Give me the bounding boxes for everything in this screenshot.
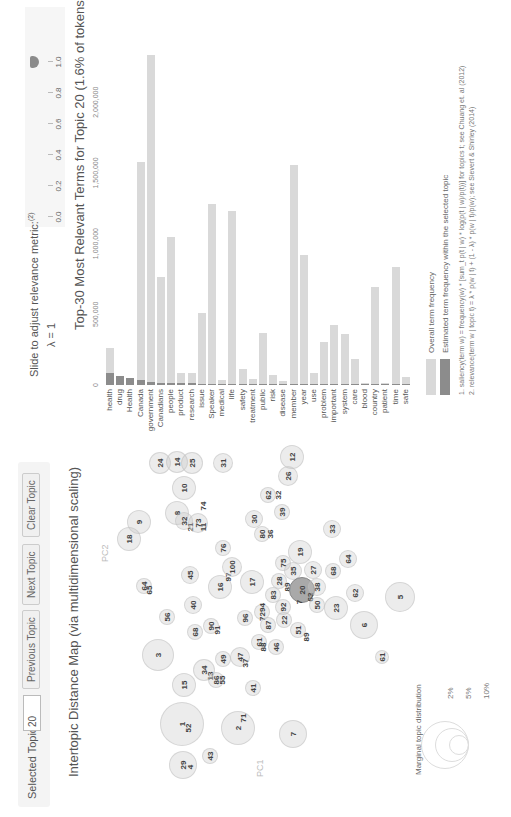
topic-label[interactable]: 5 xyxy=(396,595,405,599)
topic-label[interactable]: 7 xyxy=(295,600,304,604)
term-label[interactable]: life xyxy=(227,389,236,449)
topic-label[interactable]: 7 xyxy=(289,732,298,736)
topic-label[interactable]: 68 xyxy=(191,628,200,637)
topic-label[interactable]: 68 xyxy=(329,567,338,576)
topic-frequency-bar[interactable] xyxy=(330,384,338,385)
topic-label[interactable]: 83 xyxy=(269,591,278,600)
topic-frequency-bar[interactable] xyxy=(228,384,236,385)
topic-label[interactable]: 9 xyxy=(135,520,144,524)
term-label[interactable]: patient xyxy=(380,389,389,449)
topic-label[interactable]: 4 xyxy=(186,765,195,769)
term-label[interactable]: time xyxy=(391,389,400,449)
topic-label[interactable]: 50 xyxy=(313,601,322,610)
topic-label[interactable]: 62 xyxy=(351,589,360,598)
selected-topic-input[interactable] xyxy=(23,695,41,731)
overall-frequency-bar[interactable] xyxy=(167,237,175,385)
term-label[interactable]: health xyxy=(105,389,114,449)
topic-label[interactable]: 39 xyxy=(278,508,287,517)
topic-frequency-bar[interactable] xyxy=(167,383,175,385)
topic-frequency-bar[interactable] xyxy=(290,384,298,385)
topic-label[interactable]: 49 xyxy=(219,655,228,664)
overall-frequency-bar[interactable] xyxy=(290,165,298,385)
clear-topic-button[interactable]: Clear Topic xyxy=(22,473,40,537)
topic-label[interactable]: 36 xyxy=(266,530,275,539)
topic-label[interactable]: 74 xyxy=(199,502,208,511)
term-label[interactable]: Canadians xyxy=(156,389,165,449)
topic-frequency-bar[interactable] xyxy=(218,384,226,385)
term-label[interactable]: government xyxy=(146,389,155,449)
term-label[interactable]: safe xyxy=(401,389,410,449)
topic-label[interactable]: 46 xyxy=(272,643,281,652)
overall-frequency-bar[interactable] xyxy=(371,287,379,385)
overall-frequency-bar[interactable] xyxy=(147,55,155,385)
topic-label[interactable]: 88 xyxy=(259,643,268,652)
topic-label[interactable]: 96 xyxy=(241,614,250,623)
topic-frequency-bar[interactable] xyxy=(208,384,216,385)
topic-label[interactable]: 16 xyxy=(216,583,225,592)
topic-frequency-bar[interactable] xyxy=(116,376,124,385)
overall-frequency-bar[interactable] xyxy=(208,204,216,385)
term-label[interactable]: member xyxy=(289,389,298,449)
topic-frequency-bar[interactable] xyxy=(269,384,277,385)
topic-label[interactable]: 92 xyxy=(279,603,288,612)
term-label[interactable]: risk xyxy=(268,389,277,449)
term-label[interactable]: problem xyxy=(319,389,328,449)
topic-label[interactable]: 38 xyxy=(313,583,322,592)
term-label[interactable]: research xyxy=(187,389,196,449)
topic-frequency-bar[interactable] xyxy=(126,378,134,385)
overall-frequency-bar[interactable] xyxy=(137,162,145,385)
topic-label[interactable]: 32 xyxy=(274,491,283,500)
topic-label[interactable]: 45 xyxy=(186,571,195,580)
topic-label[interactable]: 33 xyxy=(328,525,337,534)
overall-frequency-bar[interactable] xyxy=(228,211,236,385)
term-label[interactable]: treatment xyxy=(248,389,257,449)
topic-label[interactable]: 100 xyxy=(228,560,237,573)
term-label[interactable]: disease xyxy=(278,389,287,449)
topic-frequency-bar[interactable] xyxy=(371,384,379,385)
topic-frequency-bar[interactable] xyxy=(259,384,267,385)
topic-label[interactable]: 27 xyxy=(309,566,318,575)
topic-frequency-bar[interactable] xyxy=(300,384,308,385)
topic-frequency-bar[interactable] xyxy=(106,373,114,385)
topic-label[interactable]: 30 xyxy=(250,515,259,524)
topic-frequency-bar[interactable] xyxy=(402,384,410,385)
topic-frequency-bar[interactable] xyxy=(351,384,359,385)
topic-label[interactable]: 61 xyxy=(378,653,387,662)
overall-frequency-bar[interactable] xyxy=(341,334,349,385)
overall-frequency-bar[interactable] xyxy=(300,255,308,385)
topic-label[interactable]: 41 xyxy=(249,684,258,693)
topic-label[interactable]: 64 xyxy=(344,555,353,564)
topic-label[interactable]: 62 xyxy=(264,491,273,500)
topic-label[interactable]: 24 xyxy=(156,459,165,468)
topic-label[interactable]: 23 xyxy=(332,604,341,613)
overall-frequency-bar[interactable] xyxy=(239,369,247,385)
topic-frequency-bar[interactable] xyxy=(392,384,400,385)
term-label[interactable]: year xyxy=(299,389,308,449)
topic-frequency-bar[interactable] xyxy=(137,380,145,385)
topic-label[interactable]: 91 xyxy=(213,626,222,635)
overall-frequency-bar[interactable] xyxy=(198,313,206,385)
topic-label[interactable]: 22 xyxy=(280,616,289,625)
topic-label[interactable]: 15 xyxy=(180,681,189,690)
topic-label[interactable]: 40 xyxy=(189,601,198,610)
topic-frequency-bar[interactable] xyxy=(320,384,328,385)
topic-frequency-bar[interactable] xyxy=(341,384,349,385)
topic-frequency-bar[interactable] xyxy=(177,383,185,385)
topic-label[interactable]: 10 xyxy=(180,484,189,493)
topic-frequency-bar[interactable] xyxy=(188,383,196,385)
term-label[interactable]: issue xyxy=(197,389,206,449)
topic-frequency-bar[interactable] xyxy=(198,384,206,385)
previous-topic-button[interactable]: Previous Topic xyxy=(22,610,40,689)
topic-label[interactable]: 11 xyxy=(199,523,208,531)
term-label[interactable]: Speaker xyxy=(207,389,216,449)
topic-label[interactable]: 18 xyxy=(125,535,134,544)
next-topic-button[interactable]: Next Topic xyxy=(22,544,40,605)
overall-frequency-bar[interactable] xyxy=(351,359,359,385)
topic-label[interactable]: 19 xyxy=(296,548,305,557)
topic-label[interactable]: 31 xyxy=(219,459,228,468)
topic-label[interactable]: 12 xyxy=(288,453,297,462)
topic-label[interactable]: 55 xyxy=(218,676,227,685)
term-label[interactable]: blood xyxy=(360,389,369,449)
topic-frequency-bar[interactable] xyxy=(361,384,369,385)
term-label[interactable]: people xyxy=(166,389,175,449)
